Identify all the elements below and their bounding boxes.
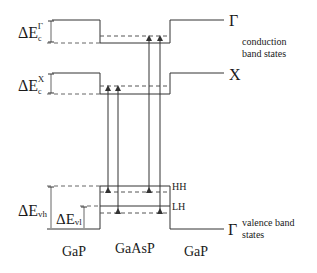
delta-evl-label: ΔEvl (56, 211, 82, 227)
gamma-cb-label: Γ (229, 12, 238, 29)
gamma-cb-edge (52, 20, 224, 43)
delta-ec-gamma-label: ΔEcΓ (18, 21, 43, 43)
gamma-vb-label: Γ (228, 221, 237, 238)
x-cb-label: X (229, 66, 241, 83)
delta-evh-label: ΔEvh (18, 202, 48, 219)
conduction-caption-1: conduction (242, 36, 286, 47)
valence-caption-2: states (242, 229, 264, 240)
lh-label: LH (172, 201, 185, 212)
material-left: GaP (62, 244, 86, 259)
hh-label: HH (172, 181, 186, 192)
x-cb-edge (52, 73, 224, 94)
delta-ec-x-label: ΔEcX (18, 74, 45, 96)
material-right: GaP (184, 244, 208, 259)
conduction-caption-2: band states (242, 48, 286, 59)
material-middle: GaAsP (115, 241, 155, 256)
valence-caption-1: valence band (242, 217, 294, 228)
band-diagram: ΔEcΓ ΔEcX ΔEvh ΔEvl Γ X Γ HH LH conducti… (0, 0, 317, 273)
